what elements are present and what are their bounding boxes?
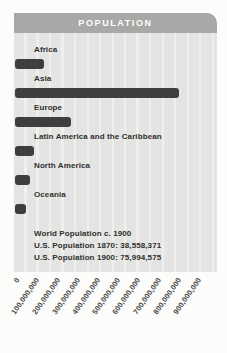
- chart-notes: World Population c. 1900 U.S. Population…: [34, 228, 217, 264]
- x-tick-label: 0: [12, 276, 22, 285]
- bar-row: North America: [15, 162, 217, 185]
- bar: [15, 204, 26, 214]
- bar-row: Europe: [15, 104, 217, 127]
- category-label: Latin America and the Caribbean: [34, 133, 217, 141]
- bar: [15, 117, 71, 127]
- x-axis: 0100,000,000200,000,000300,000,000400,00…: [14, 276, 217, 348]
- chart-rows: AfricaAsiaEuropeLatin America and the Ca…: [15, 46, 217, 214]
- chart-plot-area: AfricaAsiaEuropeLatin America and the Ca…: [14, 33, 217, 272]
- note-world-population: World Population c. 1900: [34, 228, 217, 240]
- chart-title: POPULATION: [14, 13, 217, 33]
- population-chart-panel: POPULATION AfricaAsiaEuropeLatin America…: [14, 13, 217, 272]
- bar: [15, 88, 179, 98]
- bar: [15, 146, 34, 156]
- bar: [15, 175, 30, 185]
- category-label: North America: [34, 162, 217, 170]
- bar-row: Latin America and the Caribbean: [15, 133, 217, 156]
- bar: [15, 59, 44, 69]
- category-label: Africa: [34, 46, 217, 54]
- note-us-population-1900: U.S. Population 1900: 75,994,575: [34, 252, 217, 264]
- bar-row: Africa: [15, 46, 217, 69]
- note-us-population-1870: U.S. Population 1870: 38,558,371: [34, 240, 217, 252]
- bar-row: Oceania: [15, 191, 217, 214]
- category-label: Oceania: [34, 191, 217, 199]
- category-label: Asia: [34, 75, 217, 83]
- category-label: Europe: [34, 104, 217, 112]
- bar-row: Asia: [15, 75, 217, 98]
